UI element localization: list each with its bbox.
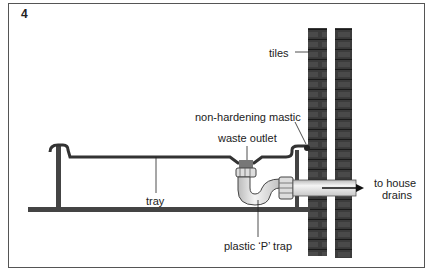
label-drains-1: to house [374, 177, 416, 189]
right-support [295, 150, 299, 208]
label-waste-outlet: waste outlet [218, 132, 277, 144]
mastic-bead [304, 145, 310, 151]
floor [28, 207, 310, 212]
waste-outlet [239, 160, 253, 168]
label-tiles: tiles [269, 47, 289, 59]
left-support [56, 146, 61, 208]
shower-tray-cross-section [0, 0, 432, 275]
label-drains-2: drains [382, 189, 412, 201]
label-mastic: non-hardening mastic [195, 111, 301, 123]
label-trap: plastic ‘P’ trap [224, 240, 292, 252]
label-tray: tray [146, 195, 164, 207]
wall-tiles [308, 28, 352, 258]
p-trap [236, 168, 293, 205]
tray [50, 145, 308, 163]
